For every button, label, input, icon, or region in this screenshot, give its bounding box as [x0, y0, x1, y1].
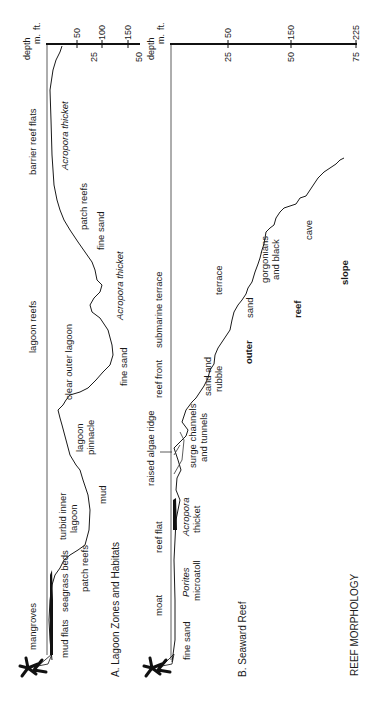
label-slope: slope: [339, 260, 350, 285]
label-reef-flat: reef flat: [153, 521, 164, 553]
label-seagrass-beds: seagrass beds: [59, 550, 70, 612]
label-turbid-inner: turbid inner: [57, 492, 68, 540]
label-lagoon-reefs: lagoon reefs: [27, 300, 38, 353]
tick-m-50: 50: [134, 52, 144, 62]
label-fine-sand: fine sand: [181, 621, 192, 660]
label-microatoll: microatoll: [191, 560, 202, 601]
label-mangroves: mangroves: [27, 603, 38, 650]
label-barrier-reef-flats: barrier reef flats: [27, 108, 38, 175]
panel-b-axis-title: depth: [146, 37, 156, 60]
label-reef-front: reef front: [153, 360, 164, 398]
reef-morphology-diagram: mangroves mud flats seagrass beds patch …: [0, 0, 379, 717]
label-reef: reef: [292, 300, 303, 318]
panel-b-seaward: fine sand moat Porites microatoll reef f…: [144, 22, 361, 677]
figure-title: REEF MORPHOLOGY: [349, 573, 360, 676]
panel-b-title: B. Seaward Reef: [237, 601, 248, 677]
tick-m-50: 50: [286, 52, 296, 62]
tick-ft-100: 100: [97, 25, 107, 40]
label-thicket: thicket: [191, 505, 202, 533]
tick-ft-50: 50: [223, 28, 233, 38]
reef-flat-band: [173, 498, 177, 530]
label-acropora-thicket-2: Acropora thicket: [59, 101, 70, 171]
label-moat: moat: [153, 595, 164, 616]
tick-m-25: 25: [223, 52, 233, 62]
label-patch-reefs-1: patch reefs: [79, 545, 90, 592]
panel-b-axis-unit-m: m.: [156, 34, 166, 44]
label-sand-and: sand and: [202, 357, 213, 396]
label-turbid-lagoon: lagoon: [68, 504, 79, 533]
label-mud-flats: mud flats: [59, 619, 70, 658]
tick-ft-150: 150: [123, 25, 133, 40]
label-and-tunnels: and tunnels: [198, 413, 209, 462]
algae-ridge-outline: [174, 432, 184, 474]
mangrove-tree-icon: [20, 654, 52, 676]
panel-b-axis-unit-ft: ft.: [156, 22, 166, 30]
label-terrace: terrace: [213, 265, 224, 295]
tick-ft-225: 225: [351, 25, 361, 40]
label-acropora: Acropora: [180, 497, 191, 537]
panel-a-axis-unit-ft: ft.: [32, 22, 42, 30]
label-gorgonians: gorgonians: [259, 236, 270, 283]
label-outer: outer: [243, 340, 254, 364]
label-cave: cave: [303, 220, 314, 240]
panel-a-lagoon: mangroves mud flats seagrass beds patch …: [20, 22, 144, 677]
label-patch-reefs-2: patch reefs: [78, 183, 89, 230]
label-and-black: and black: [270, 239, 281, 280]
label-lagoon-pinnacle-2: pinnacle: [85, 420, 96, 455]
label-acropora-thicket-1: Acropora thicket: [114, 251, 125, 321]
tick-ft-50: 50: [72, 28, 82, 38]
panel-a-title: A. Lagoon Zones and Habitats: [110, 542, 121, 677]
label-porites: Porites: [180, 567, 191, 597]
panel-a-axis-unit-m: m.: [32, 34, 42, 44]
label-sand: sand: [244, 297, 255, 318]
tick-m-25: 25: [89, 52, 99, 62]
label-lagoon-pinnacle-1: lagoon: [74, 423, 85, 452]
label-fine-sand-1: fine sand: [118, 347, 129, 386]
label-clear-outer-lagoon: clear outer lagoon: [63, 324, 74, 400]
label-rubble: rubble: [213, 366, 224, 392]
label-surge-channels: surge channels: [187, 403, 198, 468]
label-submarine-terrace: submarine terrace: [153, 271, 164, 348]
label-raised-algae-ridge: raised algae ridge: [145, 410, 156, 486]
tick-ft-150: 150: [286, 25, 296, 40]
panel-a-axis-title: depth: [22, 37, 32, 60]
label-mud: mud: [97, 486, 108, 504]
tick-m-75: 75: [351, 52, 361, 62]
label-fine-sand-2: fine sand: [95, 211, 106, 250]
mangrove-tree-icon: [144, 654, 174, 676]
